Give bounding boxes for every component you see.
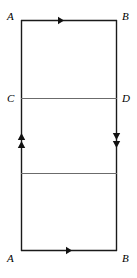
left-edge-arrow-up-icon-2 <box>18 141 25 148</box>
left-edge-arrow-up-icon-1 <box>18 133 25 140</box>
vertex-label-A-bottom: A <box>7 253 14 264</box>
vertex-label-C-mid: C <box>7 93 14 104</box>
vertex-label-D-mid: D <box>122 93 130 104</box>
figure-canvas: A B C D A B <box>0 0 137 278</box>
vertex-label-B-bottom: B <box>122 253 129 264</box>
vertex-label-A-top: A <box>7 11 14 22</box>
right-edge-arrow-down-icon-1 <box>113 133 120 140</box>
top-edge-arrow-right-icon <box>58 17 64 24</box>
vertex-label-B-top: B <box>122 11 129 22</box>
bottom-edge-arrow-right-icon <box>66 247 72 254</box>
right-edge-arrow-down-icon-2 <box>113 141 120 148</box>
diagram-svg <box>0 0 137 278</box>
